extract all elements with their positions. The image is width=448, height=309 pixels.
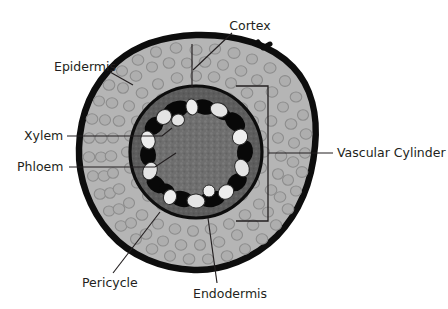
- cortex-cell: [287, 157, 299, 167]
- cortex-cell: [151, 47, 162, 58]
- epidermis-notch: [258, 42, 270, 48]
- cortex-cell: [255, 101, 266, 111]
- label-cortex: Cortex: [229, 18, 270, 33]
- label-endodermis: Endodermis: [193, 286, 267, 301]
- cortex-cell: [221, 251, 233, 262]
- cortex-cell: [113, 184, 125, 194]
- cortex-cell: [239, 210, 251, 221]
- cortex-cell: [84, 133, 95, 144]
- label-vascular-cylinder: Vascular Cylinder: [337, 145, 446, 160]
- vascular-cylinder: [130, 86, 262, 218]
- cortex-cell: [241, 88, 253, 98]
- cortex-cell: [298, 110, 309, 121]
- cortex-cell: [158, 236, 169, 246]
- cortex-cell: [106, 98, 118, 108]
- cortex-cell: [195, 240, 206, 251]
- cortex-cell: [126, 218, 137, 228]
- cortex-cell: [273, 133, 284, 143]
- cortex-cell: [103, 80, 115, 91]
- label-xylem: Xylem: [24, 128, 63, 143]
- cortex-cell: [290, 92, 302, 102]
- cortex-cell: [270, 220, 281, 230]
- cortex-cell: [169, 224, 181, 234]
- cortex-cell: [153, 79, 164, 90]
- cortex-cell: [175, 240, 187, 250]
- cortex-cell: [86, 114, 98, 124]
- cortex-cell: [171, 73, 183, 83]
- cortex-cell: [218, 60, 229, 70]
- cortex-cell: [208, 72, 220, 82]
- cortex-cell: [117, 66, 128, 76]
- cortex-cell: [256, 234, 268, 244]
- cortex-cell: [124, 101, 135, 111]
- cortex-cell: [94, 96, 105, 106]
- cortex-cell: [165, 251, 176, 261]
- cortex-cell: [100, 115, 111, 125]
- cortex-cell: [232, 230, 243, 240]
- cortex-cell: [291, 186, 302, 196]
- diagram-canvas: Cortex Epidermis Xylem Phloem Vascular C…: [0, 0, 448, 309]
- cortex-cell: [285, 119, 297, 130]
- cortex-cell: [224, 219, 235, 229]
- cortex-cell: [265, 185, 277, 195]
- root-cross-section-diagram: Cortex Epidermis Xylem Phloem Vascular C…: [0, 0, 448, 309]
- cortex-cell: [226, 78, 237, 89]
- cortex-cell: [228, 48, 240, 59]
- cortex-cell: [136, 88, 148, 98]
- label-epidermis: Epidermis: [54, 59, 116, 74]
- cortex-cell: [113, 116, 125, 127]
- cortex-cell: [289, 138, 300, 148]
- cortex-cell: [95, 133, 107, 144]
- cortex-cell: [205, 224, 217, 234]
- cortex-cell: [130, 71, 142, 81]
- label-phloem: Phloem: [17, 159, 63, 174]
- label-pericycle: Pericycle: [82, 275, 138, 290]
- cortex-cell: [105, 151, 117, 161]
- cortex-cell: [252, 75, 263, 86]
- cortex-cell: [203, 254, 214, 264]
- cortex-cell: [108, 168, 119, 179]
- cortex-cell: [240, 244, 251, 254]
- cortex-cell: [118, 83, 129, 94]
- cortex-cell: [83, 152, 95, 162]
- cortex-cell: [136, 210, 148, 221]
- cortex-cell: [183, 254, 195, 265]
- cortex-cell: [254, 199, 265, 209]
- cortex-cell: [247, 54, 258, 64]
- cortex-cell: [275, 151, 287, 161]
- cortex-cell: [163, 58, 175, 69]
- cortex-cell: [124, 198, 135, 208]
- cortex-cell: [132, 55, 144, 65]
- cortex-cell: [296, 167, 308, 178]
- cortex-cell: [264, 63, 276, 73]
- cortex-cell: [273, 169, 284, 180]
- xylem-blob: [203, 185, 215, 197]
- cortex-cell: [147, 62, 158, 72]
- cortex-cell: [104, 206, 115, 216]
- cortex-cell: [213, 237, 225, 247]
- cortex-cell: [300, 129, 312, 139]
- cortex-cell: [146, 244, 158, 254]
- cortex-cell: [278, 102, 289, 112]
- cortex-cell: [170, 43, 182, 53]
- cortex-cell: [265, 116, 277, 127]
- cortex-cell: [282, 204, 294, 215]
- cortex-cell: [235, 66, 247, 76]
- cortex-cell: [188, 226, 199, 237]
- cortex-cell: [88, 171, 99, 181]
- cortex-cell: [113, 204, 125, 214]
- cortex-cell: [279, 76, 290, 87]
- cortex-cell: [283, 175, 294, 186]
- cortex-cell: [182, 58, 193, 68]
- cortex-cell: [108, 133, 119, 143]
